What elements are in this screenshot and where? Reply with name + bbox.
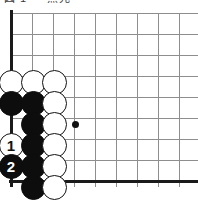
- stone-black-move-2-number-label: 2: [7, 158, 15, 173]
- stone-black-a5[interactable]: [0, 91, 24, 116]
- caption-text: 図 1 — 黒先: [4, 0, 71, 4]
- go-board-diagram: 12 図 1 — 黒先: [0, 0, 198, 202]
- stone-white-c9[interactable]: [42, 175, 67, 200]
- stone-white-move-1-number-label: 1: [7, 137, 15, 152]
- board-stones: 12: [0, 0, 198, 202]
- clipped-caption-strip: 図 1 — 黒先: [0, 0, 198, 7]
- stone-black-move-2[interactable]: 2: [0, 154, 24, 179]
